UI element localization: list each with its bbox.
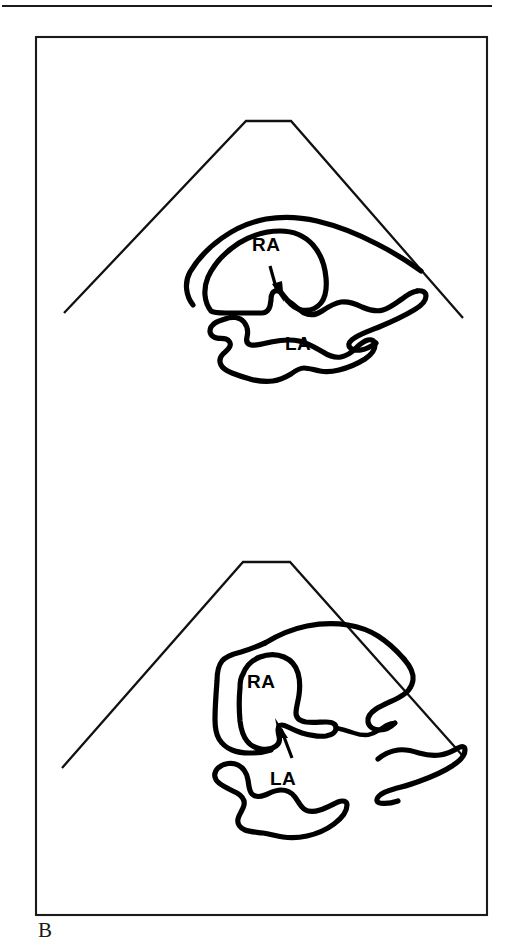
label-right-atrium: RA <box>247 671 275 692</box>
figure-container: RA LA <box>0 0 506 947</box>
label-right-atrium: RA <box>252 234 280 255</box>
upper-sector-scan: RA LA <box>64 121 463 381</box>
right-wing-contour <box>377 747 465 804</box>
lower-sector-scan: RA LA <box>62 562 465 838</box>
label-left-atrium: LA <box>285 333 311 354</box>
panel-letter-label: B <box>38 920 52 941</box>
figure-drawing: RA LA <box>0 0 506 947</box>
sector-outline <box>62 562 462 768</box>
label-left-atrium: LA <box>270 768 296 789</box>
ra-chamber-border <box>239 655 336 750</box>
upper-outer-contour <box>265 624 404 659</box>
right-wall-contour <box>368 659 413 730</box>
